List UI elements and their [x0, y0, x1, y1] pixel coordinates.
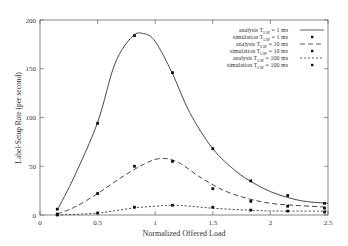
- data-point: [171, 204, 174, 207]
- data-point: [249, 200, 252, 203]
- data-point: [323, 202, 326, 205]
- y-tick-label: 50: [29, 163, 37, 171]
- data-point: [56, 214, 59, 217]
- legend-marker: [311, 50, 313, 52]
- data-point: [249, 209, 252, 212]
- x-tick-label: 2.5: [324, 219, 333, 227]
- data-point: [56, 208, 59, 211]
- y-tick-label: 150: [26, 65, 37, 73]
- data-point: [286, 205, 289, 208]
- line-chart: 00.511.522.5050100150200 analysis TLSP =…: [0, 0, 348, 246]
- data-point: [96, 122, 99, 125]
- legend: analysis TLSP = 1 mssimulation TLSP = 1 …: [227, 27, 324, 70]
- y-tick-label: 100: [26, 114, 37, 122]
- data-point: [323, 211, 326, 214]
- data-point: [211, 206, 214, 209]
- data-point: [171, 71, 174, 74]
- x-tick-label: 2: [269, 219, 273, 227]
- x-axis-label: Normalized Offered Load: [143, 229, 226, 238]
- data-point: [286, 210, 289, 213]
- y-tick-label: 0: [33, 212, 37, 220]
- data-point: [133, 206, 136, 209]
- x-tick-label: 1.5: [208, 219, 217, 227]
- legend-label: simulation TLSP = 100 ms: [227, 62, 289, 70]
- y-axis-label: Label-Setup Rate (per second): [14, 72, 23, 164]
- y-tick-label: 200: [26, 17, 37, 25]
- data-point: [96, 212, 99, 215]
- data-point: [171, 160, 174, 163]
- data-point: [211, 187, 214, 190]
- data-point: [323, 207, 326, 210]
- data-point: [211, 147, 214, 150]
- x-tick-label: 0: [38, 219, 42, 227]
- data-point: [133, 165, 136, 168]
- x-tick-label: 0.5: [93, 219, 102, 227]
- legend-marker: [311, 64, 313, 66]
- data-point: [133, 34, 136, 37]
- x-tick-label: 1: [153, 219, 157, 227]
- data-point: [286, 194, 289, 197]
- data-point: [249, 179, 252, 182]
- data-point: [96, 192, 99, 195]
- legend-marker: [311, 36, 313, 38]
